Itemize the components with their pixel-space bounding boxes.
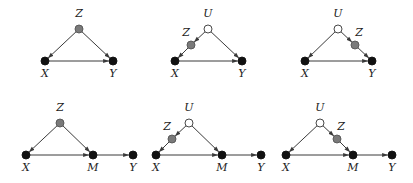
edge-u-to-x xyxy=(289,126,317,152)
edge-z-to-x xyxy=(178,48,188,58)
node-label-z: Z xyxy=(162,120,171,133)
node-y-observed xyxy=(257,151,265,159)
node-y-observed xyxy=(109,57,117,65)
node-z-proxy xyxy=(56,119,64,127)
edge-z-to-y xyxy=(358,48,369,58)
node-z-proxy xyxy=(168,135,176,143)
node-m-observed xyxy=(89,151,97,159)
node-x-observed xyxy=(152,151,160,159)
node-label-x: X xyxy=(40,67,50,80)
node-label-y: Y xyxy=(109,67,118,80)
node-label-z: Z xyxy=(336,120,345,133)
node-label-u: U xyxy=(315,101,325,114)
edge-u-to-x xyxy=(308,32,335,58)
node-m-observed xyxy=(218,151,226,159)
node-label-z: Z xyxy=(181,26,190,39)
diagram-grid: ZXYUZXYUZXYZXMYUZXMYUZXMY xyxy=(21,7,397,174)
node-label-u: U xyxy=(333,7,343,20)
causal-diagram-3: UZXY xyxy=(300,7,377,80)
node-y-observed xyxy=(129,151,137,159)
node-z-proxy xyxy=(351,41,359,49)
node-label-m: M xyxy=(346,161,359,174)
node-x-observed xyxy=(171,57,179,65)
edge-z-to-x xyxy=(48,32,76,58)
node-label-m: M xyxy=(215,161,228,174)
causal-diagrams-canvas: ZXYUZXYUZXYZXMYUZXMYUZXMY xyxy=(0,0,413,183)
edge-u-to-m xyxy=(192,126,219,152)
edge-z-to-y xyxy=(82,32,110,58)
node-z-proxy xyxy=(75,25,83,33)
node-z-proxy xyxy=(187,41,195,49)
edge-u-to-z xyxy=(175,126,186,136)
edge-u-to-z xyxy=(323,126,334,136)
edge-z-to-x xyxy=(159,142,169,152)
edge-z-to-m xyxy=(63,126,90,152)
edge-u-to-z xyxy=(194,32,205,42)
causal-diagram-4: ZXMY xyxy=(21,101,138,174)
node-label-x: X xyxy=(151,161,161,174)
node-y-observed xyxy=(388,151,396,159)
node-label-x: X xyxy=(281,161,291,174)
node-label-y: Y xyxy=(388,161,397,174)
node-x-observed xyxy=(282,151,290,159)
node-u-unobserved xyxy=(185,119,193,127)
causal-diagram-1: ZXY xyxy=(40,7,118,80)
node-x-observed xyxy=(301,57,309,65)
causal-diagram-5: UZXMY xyxy=(151,101,266,174)
node-label-x: X xyxy=(170,67,180,80)
node-label-m: M xyxy=(86,161,99,174)
edge-u-to-z xyxy=(341,32,352,42)
node-label-y: Y xyxy=(257,161,266,174)
node-label-u: U xyxy=(184,101,194,114)
node-label-y: Y xyxy=(129,161,138,174)
node-m-observed xyxy=(349,151,357,159)
node-label-x: X xyxy=(300,67,310,80)
node-u-unobserved xyxy=(204,25,212,33)
node-u-unobserved xyxy=(334,25,342,33)
node-label-z: Z xyxy=(74,7,83,20)
node-x-observed xyxy=(22,151,30,159)
node-label-y: Y xyxy=(368,67,377,80)
node-label-x: X xyxy=(21,161,31,174)
node-z-proxy xyxy=(333,135,341,143)
causal-diagram-2: UZXY xyxy=(170,7,247,80)
node-label-z: Z xyxy=(354,26,363,39)
node-y-observed xyxy=(238,57,246,65)
node-y-observed xyxy=(368,57,376,65)
node-label-z: Z xyxy=(55,101,64,114)
node-label-u: U xyxy=(203,7,213,20)
edge-z-to-x xyxy=(29,126,57,152)
node-x-observed xyxy=(41,57,49,65)
edge-u-to-y xyxy=(211,32,239,58)
edge-z-to-m xyxy=(340,142,350,152)
node-u-unobserved xyxy=(316,119,324,127)
causal-diagram-6: UZXMY xyxy=(281,101,397,174)
node-label-y: Y xyxy=(238,67,247,80)
